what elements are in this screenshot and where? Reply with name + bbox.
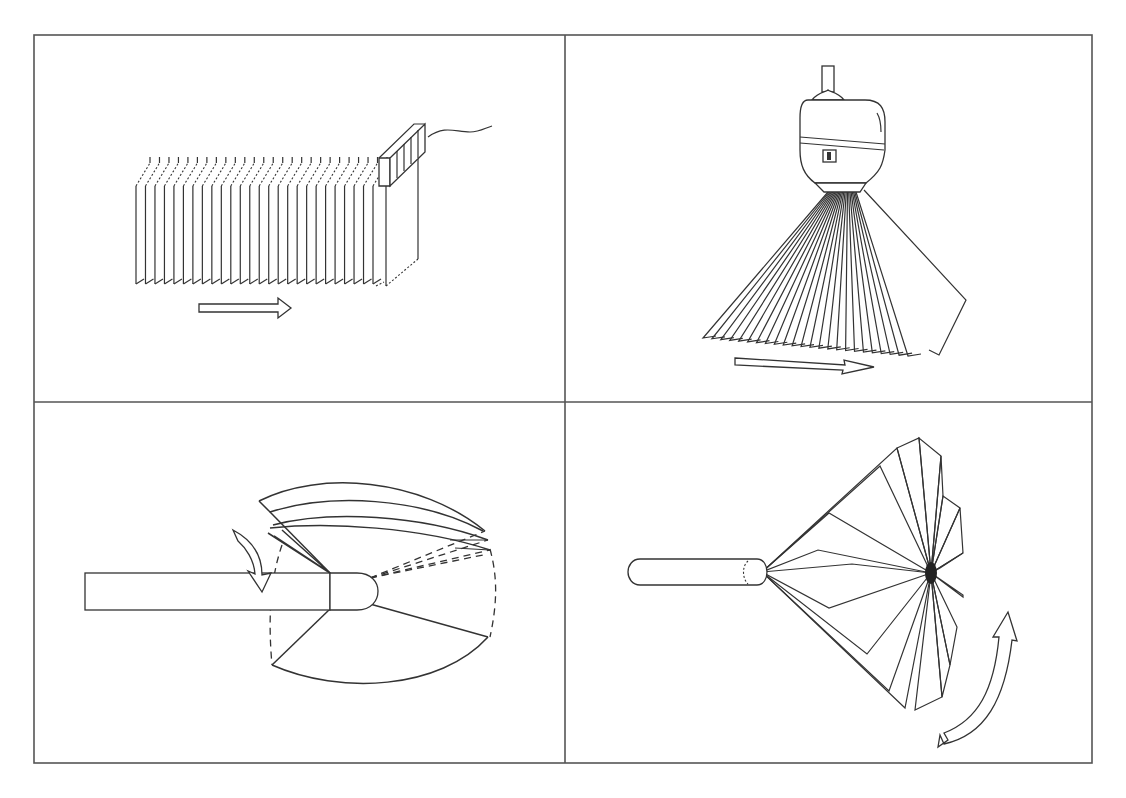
rod-probe-icon — [85, 573, 330, 610]
rotation-path-right — [490, 549, 496, 637]
diagram-figure — [0, 0, 1126, 798]
panel-grid — [34, 35, 1092, 763]
transducer-array-icon — [379, 124, 492, 186]
rotation-arrow-icon — [938, 612, 1017, 747]
translation-arrow-icon — [199, 298, 291, 318]
panel-bottom-left-rotation — [85, 483, 496, 683]
panel-top-right-fan-sweep — [703, 66, 966, 374]
sweep-arrow-icon — [735, 358, 874, 374]
outer-frame — [34, 35, 1092, 763]
probe-icon — [800, 66, 885, 192]
probe-tip-icon — [330, 573, 378, 610]
diagram-canvas — [0, 0, 1126, 798]
focal-point — [925, 562, 937, 584]
last-fan-plane — [864, 190, 966, 355]
panel-top-left-linear-scan — [136, 124, 492, 318]
cable-icon — [428, 126, 492, 137]
parallel-scan-planes — [136, 157, 387, 284]
panel-bottom-right-radial-fan — [628, 438, 1017, 747]
